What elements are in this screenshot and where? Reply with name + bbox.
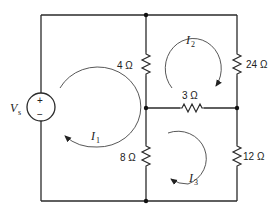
node-bottom [144, 199, 148, 203]
minus-sign: − [37, 109, 43, 120]
resistor-24-ohm: 24 Ω [233, 52, 268, 76]
resistor-12-ohm: 12 Ω [233, 144, 265, 168]
circuit-diagram: + − V s 4 Ω 24 Ω 3 Ω 8 Ω 12 Ω I 1 I 2 [0, 0, 280, 212]
resistor-8-ohm: 8 Ω [120, 144, 150, 168]
node-middle-right [235, 106, 239, 110]
i1-subscript: 1 [96, 136, 100, 145]
source-subscript: s [18, 108, 21, 117]
node-top [144, 13, 148, 17]
loop-current-i3: I 3 [168, 131, 206, 187]
resistor-4-label: 4 Ω [117, 60, 133, 71]
voltage-source: + − V s [10, 93, 55, 121]
node-middle-left [144, 106, 148, 110]
resistor-3-label: 3 Ω [182, 90, 198, 101]
plus-sign: + [37, 95, 43, 106]
loop-current-i2: I 2 [165, 33, 221, 88]
resistor-3-ohm: 3 Ω [180, 90, 204, 112]
resistor-12-label: 12 Ω [243, 151, 265, 162]
resistor-4-ohm: 4 Ω [117, 52, 150, 76]
i2-subscript: 2 [191, 40, 195, 49]
i3-subscript: 3 [194, 178, 198, 187]
resistor-8-label: 8 Ω [120, 152, 136, 163]
resistor-24-label: 24 Ω [246, 59, 268, 70]
loop-current-i1: I 1 [60, 67, 141, 147]
